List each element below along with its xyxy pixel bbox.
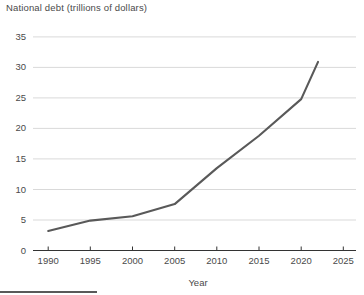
y-axis-tick-label: 20 xyxy=(2,122,26,133)
y-axis-tick-label: 25 xyxy=(2,92,26,103)
y-axis-tick-label: 15 xyxy=(2,153,26,164)
y-axis-tick-label: 35 xyxy=(2,31,26,42)
x-axis-tick-label: 2000 xyxy=(113,255,153,266)
plot-area xyxy=(0,0,364,295)
x-axis-tick-label: 2010 xyxy=(197,255,237,266)
x-axis-title: Year xyxy=(138,277,258,288)
gridlines xyxy=(33,37,356,220)
x-axis-tick-label: 2015 xyxy=(239,255,279,266)
bottom-edge-rule xyxy=(0,291,97,293)
x-axis-tick-label: 2005 xyxy=(155,255,195,266)
debt-trend-line xyxy=(48,62,318,231)
y-axis-tick-label: 10 xyxy=(2,184,26,195)
x-axis-tick-label: 1990 xyxy=(28,255,68,266)
y-axis-tick-label: 30 xyxy=(2,61,26,72)
national-debt-line-chart: National debt (trillions of dollars) 051… xyxy=(0,0,364,295)
x-axis-tick-label: 2020 xyxy=(281,255,321,266)
x-axis-tick-label: 2025 xyxy=(323,255,363,266)
y-axis-tick-label: 0 xyxy=(2,245,26,256)
x-axis-tick-label: 1995 xyxy=(70,255,110,266)
y-axis-tick-label: 5 xyxy=(2,214,26,225)
